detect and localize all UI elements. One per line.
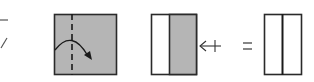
equals-sign-icon xyxy=(243,43,252,49)
step-1-square xyxy=(55,14,117,75)
step-3-result-rectangle xyxy=(265,14,302,75)
turn-over-arrow-icon xyxy=(200,40,221,52)
step-2-rectangle xyxy=(152,15,197,75)
previous-step-fragment xyxy=(0,20,8,48)
origami-diagram xyxy=(0,0,314,82)
